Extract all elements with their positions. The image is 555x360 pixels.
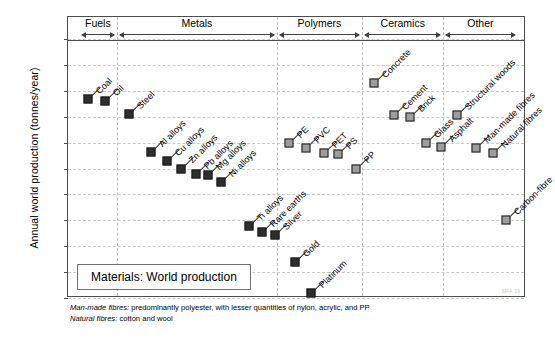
data-point-marker — [488, 148, 497, 157]
data-point-marker — [290, 258, 299, 267]
data-point-marker — [245, 222, 254, 231]
gridline — [68, 246, 524, 247]
data-point-marker — [405, 112, 414, 121]
y-tick-mark — [64, 220, 68, 221]
gridline — [68, 298, 524, 299]
group-header-other: Other — [443, 17, 517, 41]
y-tick-mark — [64, 39, 68, 40]
data-point-marker — [270, 231, 279, 240]
group-range-arrow — [280, 34, 360, 35]
group-label: Ceramics — [362, 17, 443, 30]
point-label: Coal — [94, 75, 114, 95]
y-axis-title: Annual world production (tonnes/year) — [28, 18, 40, 298]
data-point-marker — [192, 170, 201, 179]
group-label: Fuels — [79, 17, 117, 30]
y-tick-mark — [64, 91, 68, 92]
point-label: PP — [361, 150, 377, 166]
y-tick-mark — [64, 65, 68, 66]
watermark: MFA '19 — [502, 288, 520, 294]
point-label: Platinum — [317, 259, 349, 291]
y-tick-mark — [64, 143, 68, 144]
data-point-marker — [370, 79, 379, 88]
group-label: Polymers — [277, 17, 363, 30]
y-tick-mark — [64, 169, 68, 170]
y-tick-mark — [64, 298, 68, 299]
group-range-arrow — [365, 34, 440, 35]
data-point-marker — [101, 96, 110, 105]
group-divider — [117, 17, 118, 296]
y-tick-mark — [64, 246, 68, 247]
group-divider — [443, 17, 444, 296]
data-point-marker — [389, 110, 398, 119]
data-point-marker — [437, 142, 446, 151]
data-point-marker — [162, 156, 171, 165]
group-header-ceramics: Ceramics — [362, 17, 443, 41]
data-point-marker — [307, 289, 316, 298]
data-point-marker — [302, 144, 311, 153]
data-point-marker — [351, 164, 360, 173]
group-label: Other — [443, 17, 517, 30]
group-divider — [277, 17, 278, 296]
data-point-marker — [453, 110, 462, 119]
chart-caption: Materials: World production — [77, 264, 251, 290]
y-tick-mark — [64, 117, 68, 118]
point-label: Concrete — [380, 47, 413, 80]
data-point-marker — [124, 109, 133, 118]
footnote-line: Natural fibres: cotton and wool — [70, 314, 370, 325]
data-point-marker — [177, 164, 186, 173]
group-header-metals: Metals — [117, 17, 277, 41]
footnotes: Man-made fibres: predominantly polyester… — [70, 303, 370, 324]
gridline — [68, 143, 524, 144]
data-point-marker — [285, 138, 294, 147]
group-header-fuels: Fuels — [79, 17, 117, 41]
data-point-marker — [421, 138, 430, 147]
gridline — [68, 91, 524, 92]
data-point-marker — [502, 216, 511, 225]
point-label: Carbon-fibre — [512, 175, 554, 217]
point-label: Oil — [111, 83, 126, 98]
plot-frame: FuelsMetalsPolymersCeramicsOther 10¹²10¹… — [67, 16, 525, 297]
group-header-polymers: Polymers — [277, 17, 363, 41]
data-point-marker — [147, 147, 156, 156]
group-label: Metals — [117, 17, 277, 30]
point-label: PE — [295, 124, 311, 140]
group-range-arrow — [446, 34, 514, 35]
group-range-arrow — [120, 34, 274, 35]
footnote-line: Man-made fibres: predominantly polyester… — [70, 303, 370, 314]
data-point-marker — [84, 94, 93, 103]
data-point-marker — [472, 144, 481, 153]
point-label: Gold — [301, 239, 322, 260]
data-point-marker — [216, 178, 225, 187]
data-point-marker — [319, 148, 328, 157]
data-point-marker — [334, 150, 343, 159]
group-range-arrow — [82, 34, 114, 35]
point-label: Steel — [135, 89, 157, 111]
data-point-marker — [257, 228, 266, 237]
gridline — [68, 169, 524, 170]
data-point-marker — [203, 171, 212, 180]
footnote-term: Natural fibres: — [70, 314, 117, 323]
footnote-term: Man-made fibres: — [70, 303, 129, 312]
y-tick-mark — [64, 194, 68, 195]
gridline — [68, 39, 524, 40]
gridline — [68, 65, 524, 66]
y-tick-mark — [64, 272, 68, 273]
